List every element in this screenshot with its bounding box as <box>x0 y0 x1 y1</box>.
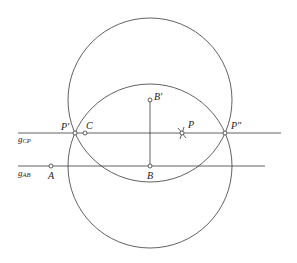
point-a <box>49 164 53 168</box>
geometry-diagram: gCP gAB A B B′ C P P′ P″ <box>0 0 297 263</box>
point-c <box>83 131 87 135</box>
label-b-prime: B′ <box>154 91 163 102</box>
label-p-double-prime: P″ <box>230 120 242 131</box>
label-g-ab: gAB <box>18 168 30 178</box>
point-b-prime <box>148 98 152 102</box>
label-a: A <box>47 170 55 181</box>
point-b <box>148 164 152 168</box>
point-p <box>180 131 184 135</box>
label-b: B <box>147 170 153 181</box>
point-p-prime <box>73 131 77 135</box>
point-p-double-prime <box>223 131 227 135</box>
label-g-cp: gCP <box>18 134 31 144</box>
label-p: P <box>187 119 194 130</box>
label-p-prime: P′ <box>60 121 70 132</box>
label-c: C <box>86 120 93 131</box>
